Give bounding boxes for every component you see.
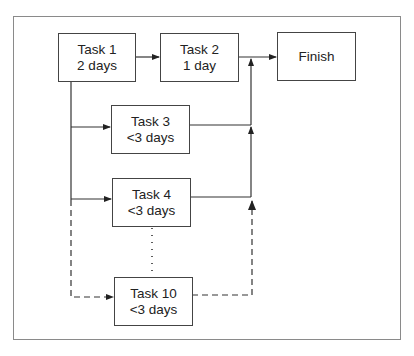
node-title: Task 1 xyxy=(77,42,116,58)
node-task1: Task 1 2 days xyxy=(58,33,136,82)
node-finish: Finish xyxy=(277,32,356,81)
node-task10: Task 10 <3 days xyxy=(114,277,193,326)
node-task2: Task 2 1 day xyxy=(160,33,239,82)
node-title: Task 3 xyxy=(131,114,170,130)
node-task4: Task 4 <3 days xyxy=(112,178,191,227)
node-duration: 2 days xyxy=(77,58,117,74)
edge-task10-trunk-dashed xyxy=(192,201,252,295)
node-title: Task 10 xyxy=(130,286,177,302)
node-title: Task 4 xyxy=(132,187,171,203)
node-duration: <3 days xyxy=(127,130,175,146)
edge-task1-task10-dashed xyxy=(71,200,113,297)
node-duration: 1 day xyxy=(183,58,216,74)
node-duration: <3 days xyxy=(128,203,176,219)
node-title: Finish xyxy=(298,49,334,65)
node-task3: Task 3 <3 days xyxy=(111,105,190,154)
node-title: Task 2 xyxy=(180,42,219,58)
node-duration: <3 days xyxy=(130,302,178,318)
